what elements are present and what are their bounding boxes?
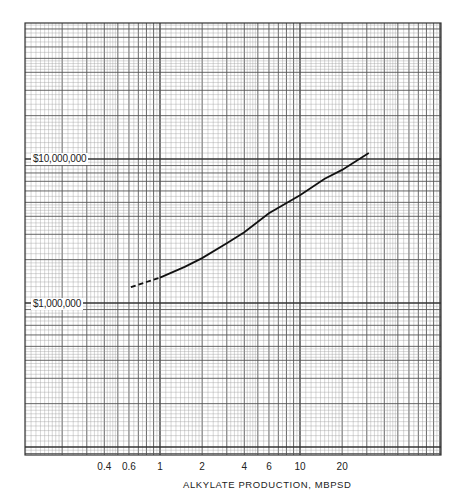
x-tick-label: 2 xyxy=(199,461,205,472)
x-tick-label: 0.6 xyxy=(122,461,136,472)
y-label-10m: $10,000,000 xyxy=(31,153,88,165)
x-axis-title: ALKYLATE PRODUCTION, MBPSD xyxy=(183,479,352,490)
x-tick-label: 6 xyxy=(266,461,272,472)
x-tick-label: 0.4 xyxy=(97,461,111,472)
cost-curve-extrapolated xyxy=(131,278,160,288)
y-label-1m: $1,000,000 xyxy=(31,298,83,310)
cost-curve xyxy=(160,153,369,278)
x-tick-label: 20 xyxy=(337,461,348,472)
x-tick-label: 4 xyxy=(242,461,248,472)
x-tick-label: 10 xyxy=(294,461,305,472)
log-log-chart xyxy=(0,0,462,499)
x-tick-label: 1 xyxy=(157,461,163,472)
